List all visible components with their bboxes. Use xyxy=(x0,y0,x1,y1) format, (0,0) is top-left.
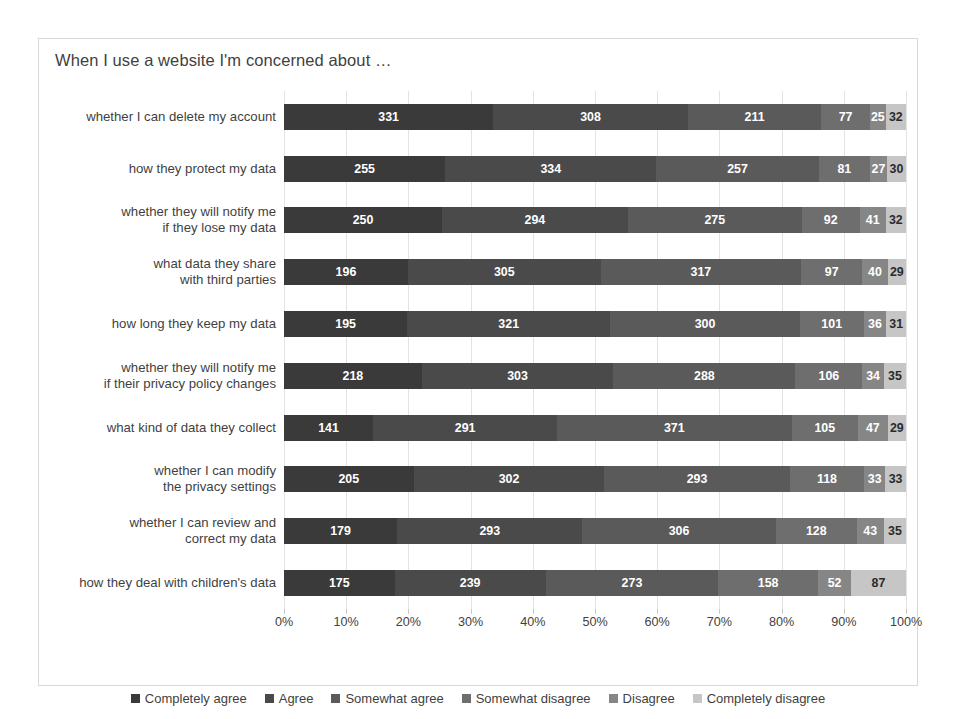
bar-segment[interactable]: 29 xyxy=(888,415,906,441)
bar-segment[interactable]: 97 xyxy=(801,259,862,285)
bar-segment[interactable]: 218 xyxy=(284,363,422,389)
bar-segment[interactable]: 308 xyxy=(493,104,688,130)
bar-segment[interactable]: 41 xyxy=(860,207,886,233)
bar-segment[interactable]: 158 xyxy=(718,570,818,596)
stacked-bar[interactable]: 250294275924132 xyxy=(284,207,906,233)
bar-segment[interactable]: 118 xyxy=(790,466,865,492)
stacked-bar[interactable]: 255334257812730 xyxy=(284,156,906,182)
bar-segment[interactable]: 40 xyxy=(862,259,887,285)
bar-segment[interactable]: 275 xyxy=(628,207,802,233)
bar-segment[interactable]: 196 xyxy=(284,259,408,285)
bar-segment[interactable]: 141 xyxy=(284,415,373,441)
bar-segment[interactable]: 321 xyxy=(407,311,610,337)
bar-segment[interactable]: 81 xyxy=(819,156,870,182)
legend-label: Completely disagree xyxy=(707,691,826,706)
bar-segment[interactable]: 288 xyxy=(613,363,795,389)
axis-tick xyxy=(657,609,658,614)
bar-segment[interactable]: 291 xyxy=(373,415,557,441)
bar-segment[interactable]: 317 xyxy=(601,259,801,285)
legend-item[interactable]: Completely agree xyxy=(131,691,247,706)
bar-segment[interactable]: 33 xyxy=(864,466,885,492)
bar-segment[interactable]: 47 xyxy=(858,415,888,441)
gridline xyxy=(906,557,907,609)
bar-segment[interactable]: 52 xyxy=(818,570,851,596)
legend-item[interactable]: Disagree xyxy=(609,691,675,706)
chart-title: When I use a website I'm concerned about… xyxy=(55,51,392,70)
bar-segment[interactable]: 211 xyxy=(688,104,821,130)
bar-segment[interactable]: 334 xyxy=(445,156,656,182)
bar-segment[interactable]: 195 xyxy=(284,311,407,337)
bar-segment[interactable]: 305 xyxy=(408,259,601,285)
bar-segment[interactable]: 29 xyxy=(888,259,906,285)
legend-item[interactable]: Somewhat disagree xyxy=(462,691,591,706)
bar-segment[interactable]: 32 xyxy=(886,207,906,233)
bar-segment[interactable]: 32 xyxy=(886,104,906,130)
bar-segment[interactable]: 128 xyxy=(776,518,857,544)
bar-segment[interactable]: 77 xyxy=(821,104,870,130)
bar-segment[interactable]: 294 xyxy=(442,207,628,233)
gridline xyxy=(906,350,907,402)
bar-segment[interactable]: 27 xyxy=(870,156,887,182)
bar-segment[interactable]: 239 xyxy=(395,570,546,596)
stacked-bar[interactable]: 2053022931183333 xyxy=(284,466,906,492)
stacked-bar[interactable]: 196305317974029 xyxy=(284,259,906,285)
bar-segment[interactable]: 371 xyxy=(557,415,792,441)
bar-segment[interactable]: 36 xyxy=(864,311,887,337)
bar-segment[interactable]: 106 xyxy=(795,363,862,389)
legend-swatch-icon xyxy=(462,694,471,703)
bar-segment[interactable]: 293 xyxy=(397,518,582,544)
gridline xyxy=(906,91,907,143)
legend-swatch-icon xyxy=(131,694,140,703)
gridline xyxy=(906,246,907,298)
bar-segment[interactable]: 105 xyxy=(792,415,858,441)
stacked-bar[interactable]: 2183032881063435 xyxy=(284,363,906,389)
legend-item[interactable]: Completely disagree xyxy=(693,691,826,706)
bar-segment[interactable]: 34 xyxy=(862,363,883,389)
axis-tick xyxy=(284,609,285,614)
stacked-bar[interactable]: 1412913711054729 xyxy=(284,415,906,441)
bar-rows: whether I can delete my account331308211… xyxy=(39,91,917,609)
bar-track: 1792933061284335 xyxy=(284,505,906,557)
stacked-bar[interactable]: 1752392731585287 xyxy=(284,570,906,596)
bar-segment[interactable]: 306 xyxy=(582,518,775,544)
bar-segment[interactable]: 92 xyxy=(802,207,860,233)
axis-tick-label: 80% xyxy=(769,615,794,629)
legend-item[interactable]: Somewhat agree xyxy=(331,691,443,706)
bar-segment[interactable]: 179 xyxy=(284,518,397,544)
bar-segment[interactable]: 87 xyxy=(851,570,906,596)
bar-segment[interactable]: 30 xyxy=(887,156,906,182)
bar-track: 1412913711054729 xyxy=(284,402,906,454)
stacked-bar[interactable]: 1792933061284335 xyxy=(284,518,906,544)
stacked-bar[interactable]: 1953213001013631 xyxy=(284,311,906,337)
axis-tick xyxy=(782,609,783,614)
gridline xyxy=(906,505,907,557)
bar-segment[interactable]: 101 xyxy=(800,311,864,337)
bar-segment[interactable]: 43 xyxy=(857,518,884,544)
bar-segment[interactable]: 255 xyxy=(284,156,445,182)
bar-segment[interactable]: 205 xyxy=(284,466,414,492)
bar-segment[interactable]: 25 xyxy=(870,104,886,130)
bar-segment[interactable]: 273 xyxy=(546,570,719,596)
bar-segment[interactable]: 257 xyxy=(656,156,818,182)
bar-segment[interactable]: 35 xyxy=(884,518,906,544)
axis-tick xyxy=(595,609,596,614)
bar-segment[interactable]: 175 xyxy=(284,570,395,596)
axis-tick-label: 90% xyxy=(831,615,856,629)
axis-tick xyxy=(906,609,907,614)
axis-tick xyxy=(408,609,409,614)
category-label: whether I can modifythe privacy settings xyxy=(39,463,284,495)
bar-track: 196305317974029 xyxy=(284,246,906,298)
bar-segment[interactable]: 31 xyxy=(886,311,906,337)
bar-segment[interactable]: 300 xyxy=(610,311,800,337)
bar-segment[interactable]: 33 xyxy=(885,466,906,492)
bar-segment[interactable]: 35 xyxy=(884,363,906,389)
bar-segment[interactable]: 331 xyxy=(284,104,493,130)
bar-segment[interactable]: 293 xyxy=(604,466,789,492)
bar-segment[interactable]: 302 xyxy=(414,466,605,492)
bar-segment[interactable]: 250 xyxy=(284,207,442,233)
axis-tick-label: 30% xyxy=(458,615,483,629)
legend-item[interactable]: Agree xyxy=(265,691,314,706)
chart-row: how long they keep my data19532130010136… xyxy=(39,298,917,350)
stacked-bar[interactable]: 331308211772532 xyxy=(284,104,906,130)
bar-segment[interactable]: 303 xyxy=(422,363,614,389)
